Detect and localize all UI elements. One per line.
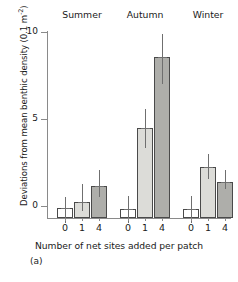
error-bar-summer-4 [99,170,100,197]
x-tick-label-autumn-0: 0 [120,222,136,234]
y-axis-title-exponent: -2 [17,9,25,15]
error-bar-summer-1 [82,184,83,211]
error-cap-autumn-4 [158,57,167,58]
x-tick-summer-0 [65,218,66,221]
x-tick-winter-1 [208,218,209,221]
error-bar-winter-4 [225,170,226,189]
x-tick-label-winter-1: 1 [200,222,216,234]
error-bar-autumn-4 [162,34,163,84]
x-tick-label-winter-0: 0 [183,222,199,234]
x-tick-autumn-0 [128,218,129,221]
error-cap-summer-0 [61,208,70,209]
y-tick-label-10: 10 [27,26,38,37]
x-tick-autumn-1 [145,218,146,221]
panel-label: (a) [30,256,43,266]
y-tick-5: 5 [41,119,48,120]
x-tick-label-summer-0: 0 [57,222,73,234]
y-axis-title-suffix: ) [19,5,29,8]
error-cap-winter-0 [187,209,196,210]
error-cap-winter-4 [221,182,230,183]
error-cap-summer-1 [78,202,87,203]
y-axis-line [47,31,48,218]
y-tick-0: 0 [41,206,48,207]
y-tick-10: 10 [41,32,48,33]
x-tick-summer-1 [82,218,83,221]
error-cap-autumn-0 [124,209,133,210]
x-tick-summer-4 [99,218,100,221]
x-tick-label-autumn-1: 1 [137,222,153,234]
x-tick-label-winter-4: 4 [217,222,233,234]
x-tick-label-summer-4: 4 [91,222,107,234]
x-tick-label-summer-1: 1 [74,222,90,234]
x-tick-autumn-4 [162,218,163,221]
x-axis-title: Number of net sites added per patch [0,240,238,251]
y-tick-label-5: 5 [32,113,38,124]
group-title-winter: Winter [168,9,238,20]
x-tick-winter-0 [191,218,192,221]
x-tick-winter-4 [225,218,226,221]
figure-panel-a: Deviations from mean benthic density (0.… [0,0,238,282]
error-cap-winter-1 [204,167,213,168]
x-axis-line [47,218,231,219]
plot-area: 0510 014014014 SummerAutumnWinter [47,26,231,218]
error-cap-summer-4 [95,186,104,187]
y-tick-label-0: 0 [32,200,38,211]
y-axis-title-text: Deviations from mean benthic density (0.… [19,15,29,206]
x-tick-label-autumn-4: 4 [154,222,170,234]
error-cap-autumn-1 [141,128,150,129]
